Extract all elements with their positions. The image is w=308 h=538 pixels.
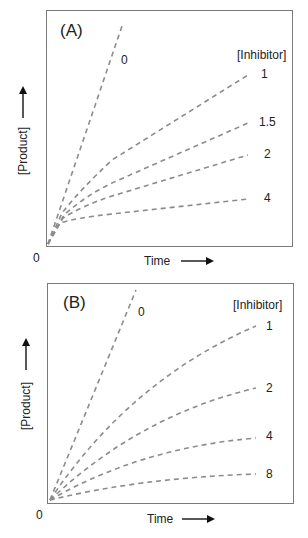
- legend-title-b: [Inhibitor]: [233, 298, 282, 312]
- curve-b-2: [50, 388, 256, 500]
- figure: (A) 0 [Inhibitor] 1 1.5 2 4 0 Time [Prod…: [0, 0, 308, 538]
- curve-b-4: [50, 438, 256, 500]
- x-axis-label-b: Time: [147, 512, 174, 526]
- curve-b-0: [50, 290, 136, 500]
- series-label-b-4: 4: [266, 429, 273, 443]
- panel-b-curves: [50, 290, 256, 500]
- curve-a-1.5: [48, 123, 248, 244]
- series-label-a-4: 4: [264, 191, 271, 205]
- series-label-b-8: 8: [266, 467, 273, 481]
- series-label-a-0: 0: [121, 53, 128, 67]
- series-label-a-1.5: 1.5: [259, 115, 276, 129]
- panel-a-label: (A): [60, 21, 83, 40]
- series-label-a-2: 2: [264, 147, 271, 161]
- origin-label-a: 0: [33, 251, 40, 265]
- y-axis-label-b: [Product]: [19, 382, 33, 430]
- panel-a: (A) 0 [Inhibitor] 1 1.5 2 4 0 Time [Prod…: [16, 11, 293, 269]
- legend-title-a: [Inhibitor]: [237, 48, 286, 62]
- curve-a-0: [48, 26, 122, 244]
- curve-a-1: [48, 75, 248, 244]
- series-label-b-2: 2: [266, 381, 273, 395]
- series-label-b-0: 0: [138, 305, 145, 319]
- origin-label-b: 0: [36, 508, 43, 522]
- y-axis-label-a: [Product]: [16, 127, 30, 175]
- curve-a-4: [48, 199, 248, 244]
- panel-b: (B) 0 [Inhibitor] 1 2 4 8 0 Time [Produc…: [19, 284, 294, 527]
- panel-b-label: (B): [63, 293, 86, 312]
- curve-a-2: [48, 155, 248, 244]
- panel-a-frame: [47, 11, 293, 247]
- curve-b-8: [50, 474, 256, 500]
- x-axis-label-a: Time: [144, 254, 171, 268]
- series-label-a-1: 1: [261, 67, 268, 81]
- series-label-b-1: 1: [266, 319, 273, 333]
- panel-a-curves: [48, 26, 248, 244]
